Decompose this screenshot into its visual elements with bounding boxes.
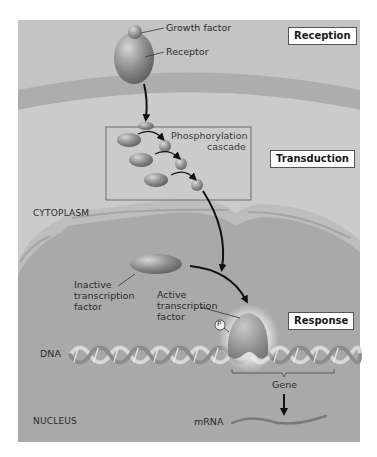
inactive-transcription-factor: [130, 254, 182, 274]
label-cascade: cascade: [207, 141, 246, 152]
label-receptor: Receptor: [166, 46, 209, 57]
label-mrna: mRNA: [194, 416, 223, 427]
cascade-substrate-1: [159, 140, 171, 152]
label-active-tf-2: transcription: [157, 300, 217, 311]
stage-transduction: Transduction: [270, 150, 355, 168]
label-dna: DNA: [40, 348, 61, 359]
growth-factor-ligand: [128, 25, 142, 39]
cascade-kinase-1: [117, 133, 141, 147]
label-active-tf-1: Active: [157, 289, 186, 300]
cascade-kinase-3: [144, 173, 168, 187]
receptor-protein: [114, 32, 154, 84]
label-nucleus: NUCLEUS: [33, 416, 77, 427]
signaling-diagram: Reception Transduction Response Growth f…: [0, 0, 377, 457]
label-gene: Gene: [272, 379, 297, 390]
stage-reception: Reception: [288, 27, 357, 45]
stage-response: Response: [288, 312, 354, 330]
label-cytoplasm: CYTOPLASM: [33, 208, 89, 219]
cascade-kinase-top: [138, 122, 154, 130]
diagram-canvas: [0, 0, 377, 457]
label-phosphate: P: [217, 320, 221, 329]
cascade-substrate-2: [175, 158, 187, 170]
label-growth-factor: Growth factor: [166, 22, 231, 33]
label-inactive-tf-3: factor: [74, 301, 102, 312]
cascade-kinase-2: [129, 153, 153, 167]
label-inactive-tf-2: transcription: [74, 290, 134, 301]
label-inactive-tf-1: Inactive: [74, 279, 112, 290]
cascade-substrate-3: [191, 179, 203, 191]
label-phosphorylation: Phosphorylation: [171, 130, 248, 141]
label-active-tf-3: factor: [157, 311, 185, 322]
